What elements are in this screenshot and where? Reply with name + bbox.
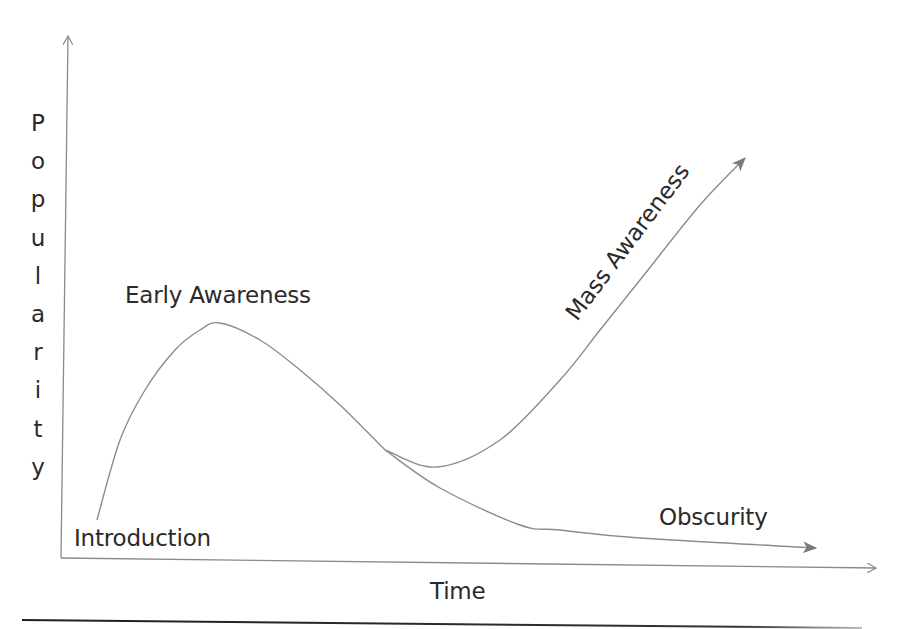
x-axis: [61, 558, 876, 568]
y-axis-letter: p: [31, 180, 46, 218]
bottom-rule: [22, 620, 862, 628]
early-awareness-curve: [97, 323, 385, 520]
y-axis-letter: u: [31, 219, 46, 257]
introduction-label: Introduction: [74, 525, 211, 551]
y-axis-letter: r: [33, 333, 42, 371]
y-axis-letter: o: [31, 142, 45, 180]
y-axis-letter: t: [33, 410, 42, 448]
y-axis-letter: l: [35, 257, 41, 295]
y-axis-letter: P: [31, 104, 45, 142]
x-axis-label: Time: [430, 578, 486, 604]
y-axis-label: Popularity: [26, 104, 50, 486]
early-awareness-label: Early Awareness: [125, 282, 311, 308]
obscurity-label: Obscurity: [659, 504, 768, 530]
y-axis-letter: a: [31, 295, 45, 333]
mass-awareness-label: Mass Awareness: [560, 159, 694, 325]
y-axis-letter: i: [35, 371, 41, 409]
y-axis-letter: y: [31, 448, 45, 486]
y-axis: [61, 36, 68, 558]
